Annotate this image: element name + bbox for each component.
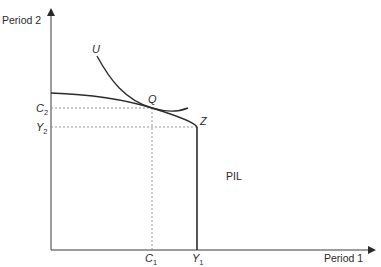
tangent-point-label: Q [148, 93, 157, 105]
y1-tick-label: Y1 [192, 252, 204, 267]
x-axis-label: Period 1 [324, 252, 363, 264]
endowment-point-label: Z [199, 115, 208, 127]
diagram-canvas: Period 2 Period 1 U Q Z C2 Y2 C1 Y1 PIL [0, 0, 381, 267]
c2-tick-label: C2 [36, 102, 48, 117]
c1-tick-label: C1 [145, 252, 157, 267]
guide-lines [51, 108, 197, 250]
budget-line [51, 93, 197, 127]
indifference-curve [97, 56, 188, 111]
region-label: PIL [226, 170, 242, 182]
y2-tick-label: Y2 [36, 121, 48, 136]
y-axis-label: Period 2 [2, 14, 41, 26]
indifference-label: U [92, 43, 100, 55]
